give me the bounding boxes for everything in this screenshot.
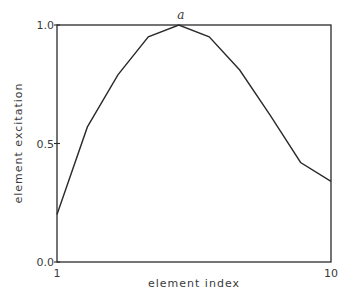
y-tick-label: 0.5 <box>37 138 55 151</box>
y-tick-label: 0.0 <box>37 256 55 269</box>
y-axis-label: element excitation <box>12 83 25 204</box>
excitation-curve <box>57 25 331 215</box>
x-tick-label: 1 <box>54 267 61 280</box>
panel-annotation: a <box>177 8 184 22</box>
x-axis-label: element index <box>148 277 240 290</box>
line-chart: 0.00.51.0 110 a element index element ex… <box>0 0 354 295</box>
x-tick-label: 10 <box>324 267 338 280</box>
plot-frame <box>57 25 331 262</box>
y-tick-label: 1.0 <box>37 19 55 32</box>
